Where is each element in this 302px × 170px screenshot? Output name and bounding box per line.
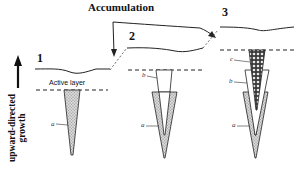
- stage-1-wedge-a: [64, 90, 80, 155]
- axis-label-line-2: growth: [17, 88, 27, 168]
- wedge-b-label-stage-2: b: [142, 71, 146, 79]
- wedge-a-label-stage-2: a: [141, 121, 145, 129]
- wedge-b-label-stage-3: b: [229, 77, 233, 85]
- stage-3-number: 3: [222, 5, 228, 20]
- connector-2-3: [203, 30, 218, 48]
- stage-2-accumulated-sediment: [113, 22, 203, 53]
- axis-label-line-1: upward-directed: [7, 88, 17, 168]
- stage-3-surface: [220, 27, 294, 31]
- stage-2-number: 2: [129, 29, 135, 44]
- wedge-c-label-stage-3: c: [230, 55, 233, 63]
- ice-wedge-diagram: [0, 0, 302, 170]
- wedge-a-label-stage-3: a: [232, 121, 236, 129]
- upward-growth-axis-label: upward-directed growth: [7, 88, 27, 168]
- active-layer-label: Active layer: [49, 79, 85, 86]
- accumulation-title: Accumulation: [88, 1, 154, 13]
- stage-1-number: 1: [37, 51, 43, 66]
- wedge-a-label-stage-1: a: [51, 120, 55, 128]
- upward-arrow-icon: [14, 55, 22, 88]
- stage-1-surface: [35, 69, 110, 73]
